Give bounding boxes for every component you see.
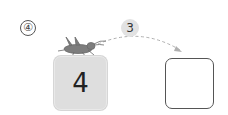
answer-box[interactable] xyxy=(165,58,214,109)
grasshopper-icon xyxy=(58,37,106,57)
start-number-box: 4 xyxy=(54,56,107,110)
step-badge: 3 xyxy=(121,19,139,37)
jump-arc xyxy=(98,36,182,52)
